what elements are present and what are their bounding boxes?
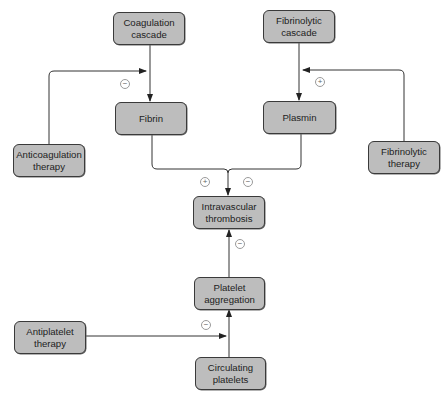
node-intravascular-thrombosis: Intravascular thrombosis xyxy=(193,196,265,229)
node-plasmin: Plasmin xyxy=(263,101,336,134)
node-platelet-aggregation: Platelet aggregation xyxy=(194,277,265,310)
node-anticoagulation-therapy: Anticoagulation therapy xyxy=(13,144,85,177)
node-circulating-platelets: Circulating platelets xyxy=(195,357,266,390)
minus-sign-icon: − xyxy=(235,239,245,249)
edge-plasmin-to-thrombosis xyxy=(228,134,301,173)
node-label: Plasmin xyxy=(282,112,316,124)
minus-sign-icon: − xyxy=(120,79,130,89)
node-antiplatelet-therapy: Antiplatelet therapy xyxy=(14,321,86,354)
minus-sign-icon: − xyxy=(243,177,253,187)
edge-fibrin-to-thrombosis xyxy=(152,135,228,173)
node-label: Antiplatelet therapy xyxy=(26,326,73,350)
node-coagulation-cascade: Coagulation cascade xyxy=(113,12,185,45)
node-label: Circulating platelets xyxy=(208,362,253,386)
plus-sign-icon: + xyxy=(315,77,325,87)
node-label: Intravascular thrombosis xyxy=(202,201,257,225)
minus-sign-icon: − xyxy=(201,320,211,330)
node-label: Fibrinolytic therapy xyxy=(381,146,427,170)
plus-sign-icon: + xyxy=(200,177,210,187)
node-label: Platelet aggregation xyxy=(204,282,255,306)
node-label: Fibrinolytic cascade xyxy=(276,15,322,39)
node-label: Fibrin xyxy=(139,113,163,125)
node-fibrinolytic-therapy: Fibrinolytic therapy xyxy=(368,141,440,174)
node-label: Coagulation cascade xyxy=(123,17,174,41)
node-fibrin: Fibrin xyxy=(115,102,187,135)
node-label: Anticoagulation therapy xyxy=(16,149,82,173)
node-fibrinolytic-cascade: Fibrinolytic cascade xyxy=(263,10,335,43)
